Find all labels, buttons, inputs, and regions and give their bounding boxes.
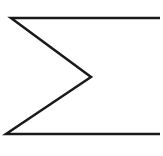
sigma-diagram: Σ	[0, 0, 163, 156]
sigma-icon	[0, 0, 163, 156]
sigma-shape	[6, 18, 160, 134]
